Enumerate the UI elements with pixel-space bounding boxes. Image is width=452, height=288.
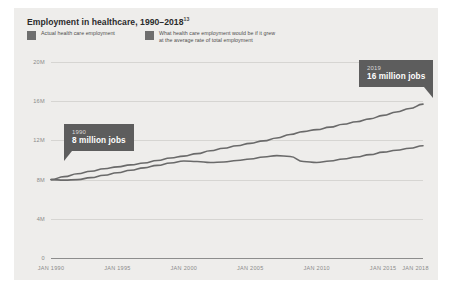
x-axis-tick-label: JAN 2010 xyxy=(303,265,330,271)
legend-item-actual: Actual health care employment xyxy=(27,30,115,40)
plot-area: 04M8M12M16M20M JAN 1990JAN 1995JAN 2000J… xyxy=(51,62,423,258)
y-axis-tick-label: 0 xyxy=(42,255,45,261)
chart-legend: Actual health care employment What healt… xyxy=(27,30,427,52)
callout-1990-value: 8 million jobs xyxy=(72,136,126,146)
x-axis-tick-label: JAN 2005 xyxy=(237,265,264,271)
callout-1990: 1990 8 million jobs xyxy=(64,124,134,151)
legend-swatch-icon xyxy=(27,31,36,40)
legend-swatch-icon xyxy=(145,31,154,40)
legend-item-hypothetical: What health care employment would be if … xyxy=(145,30,275,43)
legend-label-hypothetical: What health care employment would be if … xyxy=(159,30,275,43)
chart-title-text: Employment in healthcare, 1990–2018 xyxy=(27,17,184,27)
page-title: Employment in healthcare, 1990–201813 xyxy=(27,16,189,27)
chart-card: Employment in healthcare, 1990–201813 Ac… xyxy=(14,8,438,280)
callout-2019-value: 16 million jobs xyxy=(367,72,425,82)
x-axis-tick-label: JAN 2000 xyxy=(171,265,198,271)
series-lines xyxy=(51,62,423,258)
callout-1990-year: 1990 xyxy=(72,128,126,136)
legend-label-actual: Actual health care employment xyxy=(41,30,115,37)
y-axis-tick-label: 20M xyxy=(33,59,45,65)
y-axis-tick-label: 4M xyxy=(37,216,45,222)
y-axis-tick-label: 12M xyxy=(33,137,45,143)
callout-tail-icon xyxy=(64,151,72,161)
callout-2019-year: 2019 xyxy=(367,64,425,72)
x-axis-tick-label: JAN 2018 xyxy=(402,265,429,271)
gridline xyxy=(51,258,423,259)
callout-2019: 2019 16 million jobs xyxy=(359,60,433,87)
x-axis-tick-label: JAN 1990 xyxy=(38,265,65,271)
chart-title-footnote-marker: 13 xyxy=(184,16,190,22)
y-axis-tick-label: 16M xyxy=(33,98,45,104)
x-axis-tick-label: JAN 2015 xyxy=(370,265,397,271)
y-axis-tick-label: 8M xyxy=(37,177,45,183)
callout-tail-icon xyxy=(424,87,433,98)
x-axis-tick-label: JAN 1995 xyxy=(104,265,131,271)
